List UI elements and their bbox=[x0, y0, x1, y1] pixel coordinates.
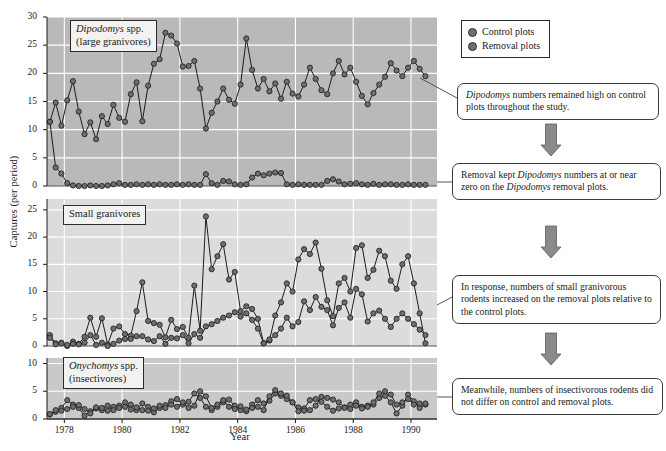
data-point bbox=[261, 408, 266, 413]
data-point bbox=[59, 171, 64, 176]
data-point bbox=[157, 322, 162, 327]
data-point bbox=[140, 182, 145, 187]
callout-small-granivores: In response, numbers of small granivorou… bbox=[452, 275, 661, 324]
data-point bbox=[307, 408, 312, 413]
data-point bbox=[261, 173, 266, 178]
data-point bbox=[238, 404, 243, 409]
data-point bbox=[140, 408, 145, 413]
data-point bbox=[302, 182, 307, 187]
data-point bbox=[371, 311, 376, 316]
data-point bbox=[65, 342, 70, 347]
legend-item-control: Control plots bbox=[468, 25, 540, 39]
data-point bbox=[128, 336, 133, 341]
data-point bbox=[394, 286, 399, 291]
data-point bbox=[302, 408, 307, 413]
data-point bbox=[278, 326, 283, 331]
data-point bbox=[359, 292, 364, 297]
data-point bbox=[278, 96, 283, 101]
data-point bbox=[319, 88, 324, 93]
data-point bbox=[313, 403, 318, 408]
data-point bbox=[400, 400, 405, 405]
data-point bbox=[313, 240, 318, 245]
data-point bbox=[151, 182, 156, 187]
data-point bbox=[406, 65, 411, 70]
data-point bbox=[377, 391, 382, 396]
data-point bbox=[400, 262, 405, 267]
data-point bbox=[151, 406, 156, 411]
data-point bbox=[250, 67, 255, 72]
data-point bbox=[186, 405, 191, 410]
data-point bbox=[221, 86, 226, 91]
data-point bbox=[267, 171, 272, 176]
data-point bbox=[244, 36, 249, 41]
panel-label-subtitle: (insectivores) bbox=[69, 373, 126, 384]
y-tick-label: 10 bbox=[11, 287, 37, 297]
data-point bbox=[336, 58, 341, 63]
data-point bbox=[140, 401, 145, 406]
data-point bbox=[330, 323, 335, 328]
data-point bbox=[388, 61, 393, 66]
data-point bbox=[371, 267, 376, 272]
data-point bbox=[411, 182, 416, 187]
data-point bbox=[394, 402, 399, 407]
data-point bbox=[99, 114, 104, 119]
data-point bbox=[411, 402, 416, 407]
data-point bbox=[226, 313, 231, 318]
data-point bbox=[192, 58, 197, 63]
data-point bbox=[354, 286, 359, 291]
data-point bbox=[221, 315, 226, 320]
data-point bbox=[65, 406, 70, 411]
data-point bbox=[313, 76, 318, 81]
data-point bbox=[70, 341, 75, 346]
data-point bbox=[250, 175, 255, 180]
data-point bbox=[151, 61, 156, 66]
data-point bbox=[411, 281, 416, 286]
data-point bbox=[354, 403, 359, 408]
data-point bbox=[255, 171, 260, 176]
data-point bbox=[53, 342, 58, 347]
data-point bbox=[377, 182, 382, 187]
data-point bbox=[53, 165, 58, 170]
data-point bbox=[163, 182, 168, 187]
data-point bbox=[423, 341, 428, 346]
data-point bbox=[226, 404, 231, 409]
data-point bbox=[117, 181, 122, 186]
data-point bbox=[411, 58, 416, 63]
data-point bbox=[117, 324, 122, 329]
data-point bbox=[163, 30, 168, 35]
data-point bbox=[151, 339, 156, 344]
data-point bbox=[406, 254, 411, 259]
data-point bbox=[82, 132, 87, 137]
data-point bbox=[290, 289, 295, 294]
data-point bbox=[400, 311, 405, 316]
data-point bbox=[359, 182, 364, 187]
leader-line-small-granivores bbox=[437, 297, 452, 305]
data-point bbox=[423, 333, 428, 338]
data-point bbox=[302, 299, 307, 304]
callout-dipodomys-removal: Removal kept Dipodomys numbers at or nea… bbox=[452, 163, 661, 200]
y-tick-label: 0 bbox=[11, 181, 37, 191]
data-point bbox=[273, 170, 278, 175]
data-point bbox=[417, 66, 422, 71]
data-point bbox=[348, 289, 353, 294]
data-point bbox=[99, 316, 104, 321]
data-point bbox=[342, 275, 347, 280]
data-point bbox=[117, 405, 122, 410]
data-point bbox=[174, 41, 179, 46]
data-point bbox=[174, 182, 179, 187]
data-point bbox=[174, 336, 179, 341]
legend-item-removal: Removal plots bbox=[468, 39, 540, 53]
data-point bbox=[65, 398, 70, 403]
data-point bbox=[59, 408, 64, 413]
data-point bbox=[215, 254, 220, 259]
data-point bbox=[325, 298, 330, 303]
data-point bbox=[325, 395, 330, 400]
data-point bbox=[180, 182, 185, 187]
data-point bbox=[325, 178, 330, 183]
data-point bbox=[336, 281, 341, 286]
data-point bbox=[244, 407, 249, 412]
data-point bbox=[336, 400, 341, 405]
y-tick-label: 5 bbox=[11, 386, 37, 396]
data-point bbox=[215, 402, 220, 407]
data-point bbox=[348, 406, 353, 411]
